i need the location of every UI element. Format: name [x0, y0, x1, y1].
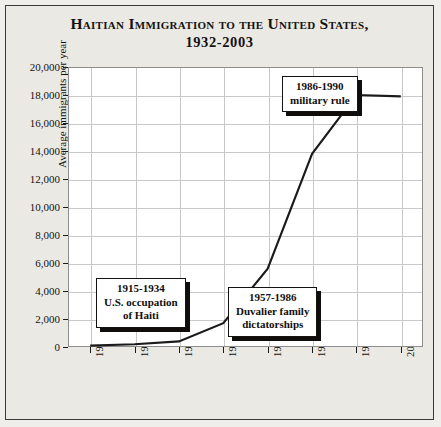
- x-tick-mark: [179, 347, 180, 353]
- x-tick-mark: [312, 347, 313, 353]
- annotation-line: U.S. occupation: [104, 296, 178, 310]
- chart-title: Haitian Immigration to the United States…: [6, 14, 433, 33]
- chart-figure: Haitian Immigration to the United States…: [5, 5, 434, 420]
- x-tick-mark: [268, 347, 269, 353]
- chart-title-block: Haitian Immigration to the United States…: [6, 14, 433, 52]
- annotation-line: 1915-1934: [104, 282, 178, 296]
- y-tick-label: 6,000: [8, 258, 60, 268]
- annotation-duvalier-dictatorships: 1957-1986 Duvalier family dictatorships: [228, 287, 317, 337]
- y-tick-label: 12,000: [8, 174, 60, 184]
- annotation-us-occupation: 1915-1934 U.S. occupation of Haiti: [96, 278, 186, 328]
- y-tick-label: 2,000: [8, 314, 60, 324]
- annotation-line: dictatorships: [236, 318, 309, 332]
- chart-subtitle: 1932-2003: [6, 33, 433, 52]
- annotation-line: military rule: [290, 94, 350, 108]
- y-tick-label: 14,000: [8, 146, 60, 156]
- x-tick-mark: [90, 347, 91, 353]
- y-tick-label: 20,000: [8, 62, 60, 72]
- annotation-line: Duvalier family: [236, 305, 309, 319]
- x-tick-mark: [401, 347, 402, 353]
- annotation-military-rule: 1986-1990 military rule: [282, 76, 358, 112]
- x-tick-mark: [356, 347, 357, 353]
- y-tick-label: 18,000: [8, 90, 60, 100]
- y-tick-label: 10,000: [8, 202, 60, 212]
- y-tick-mark: [63, 347, 68, 348]
- y-tick-label: 0: [8, 342, 60, 352]
- annotation-line: 1957-1986: [236, 291, 309, 305]
- x-tick-mark: [223, 347, 224, 353]
- y-tick-label: 8,000: [8, 230, 60, 240]
- y-tick-label: 4,000: [8, 286, 60, 296]
- annotation-line: 1986-1990: [290, 80, 350, 94]
- y-tick-label: 16,000: [8, 118, 60, 128]
- x-tick-mark: [135, 347, 136, 353]
- annotation-line: of Haiti: [104, 309, 178, 323]
